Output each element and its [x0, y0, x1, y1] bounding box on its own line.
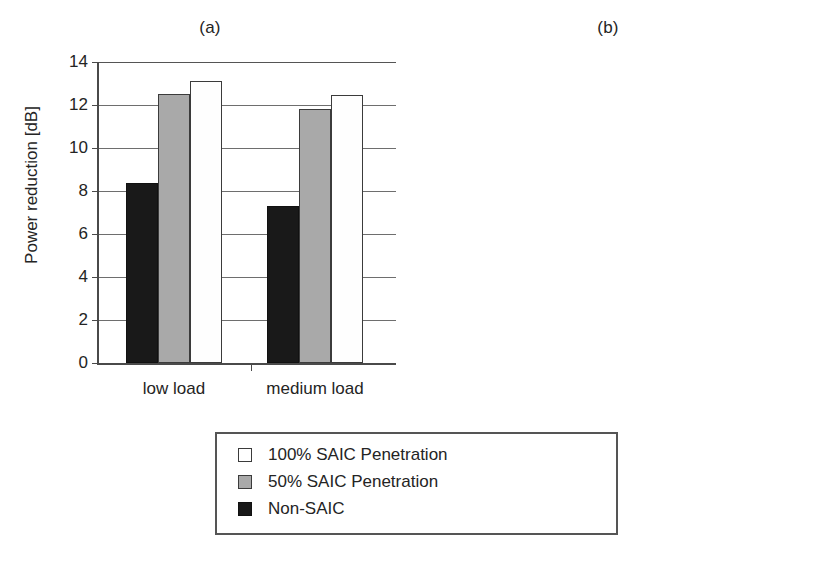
- legend-swatch-non-saic-icon: [238, 502, 252, 516]
- y-axis-tick: [92, 320, 99, 321]
- chart-panel-a: (a) Power reduction [dB] 02468101214low …: [0, 0, 410, 420]
- legend-swatch-100-saic-icon: [238, 448, 252, 462]
- bar: [331, 95, 363, 363]
- y-axis-tick: [92, 62, 99, 63]
- legend-item-non-saic: Non-SAIC: [238, 497, 345, 521]
- y-axis-tick-label: 12: [69, 95, 88, 115]
- legend-label-non-saic: Non-SAIC: [268, 499, 345, 519]
- bar: [190, 81, 222, 363]
- legend-box: 100% SAIC Penetration 50% SAIC Penetrati…: [215, 432, 618, 535]
- gridline: [99, 62, 396, 63]
- y-axis-tick-label: 4: [79, 267, 88, 287]
- legend-item-50-saic: 50% SAIC Penetration: [238, 470, 438, 494]
- legend-label-100-saic: 100% SAIC Penetration: [268, 445, 448, 465]
- y-axis-tick-label: 8: [79, 181, 88, 201]
- bar: [126, 183, 158, 363]
- chart-panel-b: (b) Energy savings (non-SAIC as referenc…: [409, 0, 819, 420]
- panel-a-title: (a): [5, 18, 415, 38]
- x-axis-tick-label: medium load: [266, 379, 363, 399]
- y-axis-tick-label: 6: [79, 224, 88, 244]
- bar: [299, 109, 331, 363]
- legend-swatch-50-saic-icon: [238, 475, 252, 489]
- panel-a-plot-area: 02468101214low loadmedium load: [97, 62, 396, 365]
- y-axis-tick-label: 10: [69, 138, 88, 158]
- panel-a-y-axis-label: Power reduction [dB]: [22, 50, 42, 320]
- bar: [158, 94, 190, 363]
- x-axis-tick: [251, 363, 252, 371]
- y-axis-tick-label: 0: [79, 353, 88, 373]
- y-axis-tick: [92, 191, 99, 192]
- y-axis-tick-label: 14: [69, 52, 88, 72]
- y-axis-tick: [92, 234, 99, 235]
- x-axis-tick-label: low load: [143, 379, 205, 399]
- legend-label-50-saic: 50% SAIC Penetration: [268, 472, 438, 492]
- panel-b-title: (b): [403, 18, 813, 38]
- figure-canvas: (a) Power reduction [dB] 02468101214low …: [0, 0, 819, 562]
- y-axis-tick-label: 2: [79, 310, 88, 330]
- y-axis-tick: [92, 105, 99, 106]
- y-axis-tick: [92, 363, 99, 364]
- bar: [267, 206, 299, 363]
- y-axis-tick: [92, 277, 99, 278]
- legend-item-100-saic: 100% SAIC Penetration: [238, 443, 448, 467]
- y-axis-tick: [92, 148, 99, 149]
